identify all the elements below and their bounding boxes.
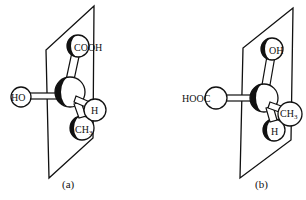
atom-cooh-a: COOH (67, 35, 102, 57)
atom-oh-b: OH (261, 38, 283, 60)
atom-ch3-b: CH3 (278, 102, 302, 126)
atom-hooc-b: HOOC (182, 87, 227, 109)
label-ho-a: HO (11, 92, 25, 103)
caption-a: (a) (62, 178, 75, 191)
label-hooc-b: HOOC (182, 93, 211, 104)
atom-h-a: H (84, 99, 106, 121)
label-h-b: H (271, 126, 278, 137)
figure: HO COOH CH3 (0, 0, 306, 200)
caption-b: (b) (255, 178, 268, 191)
label-oh-b: OH (269, 45, 283, 56)
atom-ho-a: HO (11, 87, 31, 107)
panel-b: HOOC OH H (182, 8, 302, 191)
label-cooh-a: COOH (74, 42, 102, 53)
label-h-a: H (91, 105, 98, 116)
panel-a: HO COOH CH3 (11, 6, 106, 191)
